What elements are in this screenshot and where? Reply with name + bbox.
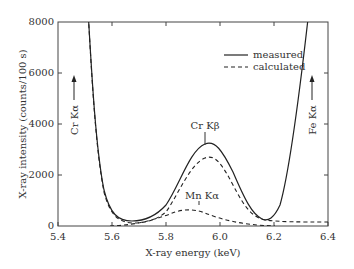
cr-ka-arrow-icon	[72, 75, 77, 100]
legend: measured calculated	[224, 49, 306, 72]
y-tick-label: 8000	[29, 16, 54, 27]
fe-ka-arrow-icon	[310, 75, 315, 100]
y-tick-label: 6000	[29, 67, 54, 78]
x-tick-label: 6.0	[212, 231, 228, 242]
y-tick-label: 4000	[29, 118, 54, 129]
cr-kb-label: Cr Kβ	[191, 120, 220, 131]
x-tick-label: 6.2	[266, 231, 282, 242]
y-tick-labels: 0 2000 4000 6000 8000	[29, 16, 54, 231]
spectrum-chart: 5.4 5.6 5.8 6.0 6.2 6.4 0 2000 4000 6000…	[0, 0, 354, 269]
x-tick-label: 5.4	[50, 231, 66, 242]
y-tick-label: 0	[48, 220, 54, 231]
x-tick-label: 5.8	[158, 231, 174, 242]
x-tick-label: 5.6	[104, 231, 120, 242]
mn-ka-label: Mn Kα	[185, 190, 219, 201]
x-axis-title: X-ray energy (keV)	[146, 247, 241, 258]
x-tick-label: 6.4	[320, 231, 336, 242]
fe-ka-label: Fe Kα	[307, 105, 318, 135]
y-tick-label: 2000	[29, 169, 54, 180]
cr-ka-label: Cr Kα	[69, 105, 80, 135]
x-tick-labels: 5.4 5.6 5.8 6.0 6.2 6.4	[50, 231, 336, 242]
legend-measured-label: measured	[253, 49, 304, 60]
y-axis-title: X-ray intensity (counts/100 s)	[17, 49, 28, 198]
legend-calculated-label: calculated	[253, 61, 306, 72]
